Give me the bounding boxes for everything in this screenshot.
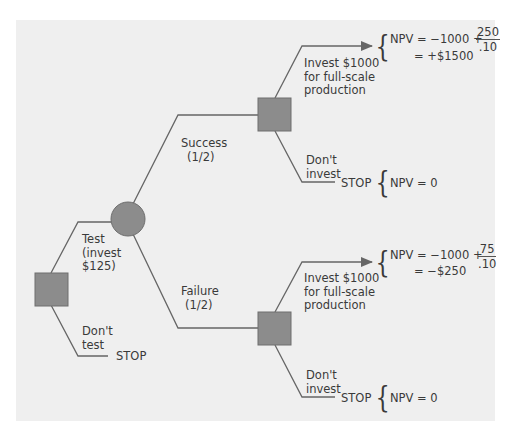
- dont-invest-label-line: Don't: [306, 369, 341, 383]
- dont-test-label: Don't test: [82, 325, 113, 352]
- failure-invest-npv-result: = −$250: [414, 265, 466, 278]
- fraction-denominator: .10: [476, 40, 500, 54]
- success-label-line: Success: [181, 137, 227, 151]
- test-label-line: (invest: [82, 247, 121, 261]
- invest-label-line: production: [304, 299, 379, 313]
- success-dont-invest-label: Don't invest: [306, 154, 341, 181]
- success-invest-npv-result: = +$1500: [414, 50, 474, 63]
- success-decision-node: [258, 98, 291, 131]
- success-stop-label: STOP: [341, 177, 371, 191]
- failure-invest-npv-fraction: 75 .10: [478, 243, 496, 271]
- root-decision-node: [35, 273, 68, 306]
- failure-label: Failure (1/2): [181, 285, 219, 312]
- failure-label-line: Failure: [181, 285, 219, 299]
- failure-invest-npv-line1: NPV = −1000 +: [390, 249, 483, 262]
- success-label: Success (1/2): [181, 137, 227, 164]
- success-probability: (1/2): [181, 151, 227, 165]
- success-invest-label: Invest $1000 for full-scale production: [304, 57, 379, 98]
- decision-tree-graphic: [0, 0, 510, 439]
- success-invest-brace: {: [375, 31, 389, 61]
- dont-test-stop-label: STOP: [116, 350, 146, 364]
- fraction-denominator: .10: [478, 257, 496, 271]
- failure-stop-label: STOP: [341, 392, 371, 406]
- failure-dont-invest-label: Don't invest: [306, 369, 341, 396]
- dont-invest-label-line: invest: [306, 168, 341, 182]
- invest-label-line: Invest $1000: [304, 272, 379, 286]
- failure-stop-npv: NPV = 0: [390, 392, 438, 405]
- test-label-line: $125): [82, 260, 121, 274]
- test-label: Test (invest $125): [82, 233, 121, 274]
- fraction-numerator: 75: [478, 243, 496, 257]
- failure-probability: (1/2): [181, 299, 219, 313]
- dont-invest-label-line: Don't: [306, 154, 341, 168]
- failure-stop-brace: {: [375, 382, 389, 412]
- failure-decision-node: [258, 312, 291, 345]
- success-invest-npv-fraction: 250 .10: [476, 26, 500, 54]
- invest-label-line: Invest $1000: [304, 57, 379, 71]
- success-stop-npv: NPV = 0: [390, 177, 438, 190]
- failure-invest-brace: {: [375, 247, 389, 277]
- dont-test-label-line: test: [82, 339, 113, 353]
- fraction-numerator: 250: [476, 26, 500, 40]
- invest-label-line: for full-scale: [304, 71, 379, 85]
- dont-invest-label-line: invest: [306, 383, 341, 397]
- test-chance-node: [111, 202, 145, 236]
- edge-failure: [133, 234, 259, 328]
- invest-label-line: for full-scale: [304, 286, 379, 300]
- test-label-line: Test: [82, 233, 121, 247]
- success-invest-npv-line1: NPV = −1000 +: [390, 33, 483, 46]
- success-stop-brace: {: [375, 167, 389, 197]
- dont-test-label-line: Don't: [82, 325, 113, 339]
- failure-invest-label: Invest $1000 for full-scale production: [304, 272, 379, 313]
- invest-label-line: production: [304, 84, 379, 98]
